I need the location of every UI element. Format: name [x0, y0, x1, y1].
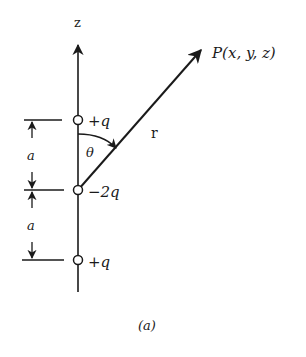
z-axis-label: z — [74, 15, 81, 30]
charge-bottom — [74, 256, 83, 265]
figure-caption: (a) — [138, 318, 156, 333]
quadrupole-diagram: z r P(x, y, z) θ +q −2q +q a a (a) — [0, 0, 306, 357]
charge-top — [74, 116, 83, 125]
charge-middle — [74, 186, 83, 195]
r-label: r — [151, 125, 158, 141]
spacing-label-upper: a — [27, 148, 35, 163]
charge-bottom-label: +q — [88, 253, 110, 271]
reference-ticks — [22, 120, 64, 260]
spacing-label-lower: a — [27, 218, 35, 233]
charge-middle-label: −2q — [88, 183, 120, 201]
point-p-label: P(x, y, z) — [211, 44, 276, 62]
theta-label: θ — [86, 145, 94, 160]
charge-top-label: +q — [88, 112, 110, 130]
theta-arc — [78, 134, 116, 148]
